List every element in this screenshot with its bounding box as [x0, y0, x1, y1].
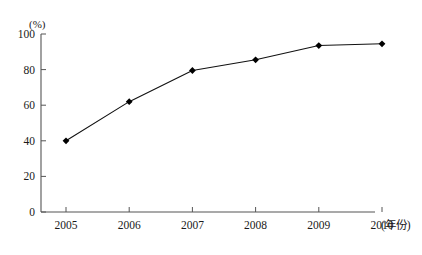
y-axis-tick-label: 80 [24, 64, 36, 76]
x-axis-tick-label: 2005 [55, 219, 78, 231]
line-chart: 100806040200 200520062007200820092010 (%… [0, 0, 422, 255]
y-axis-tick-label: 60 [24, 99, 36, 111]
x-axis-tick-label: 2007 [181, 219, 204, 231]
chart-canvas: 100806040200 200520062007200820092010 (%… [0, 0, 422, 255]
x-axis-tick-label: 2009 [307, 219, 330, 231]
chart-background [0, 0, 422, 255]
x-axis-tick-label: 2006 [118, 219, 141, 231]
x-axis-unit-label: (年份) [381, 218, 411, 232]
y-axis-tick-label: 20 [24, 170, 36, 182]
y-axis-tick-label: 40 [24, 135, 36, 147]
y-axis-tick-label: 0 [29, 206, 35, 218]
x-axis-tick-label: 2008 [244, 219, 267, 231]
y-axis-unit-label: (%) [29, 18, 46, 31]
